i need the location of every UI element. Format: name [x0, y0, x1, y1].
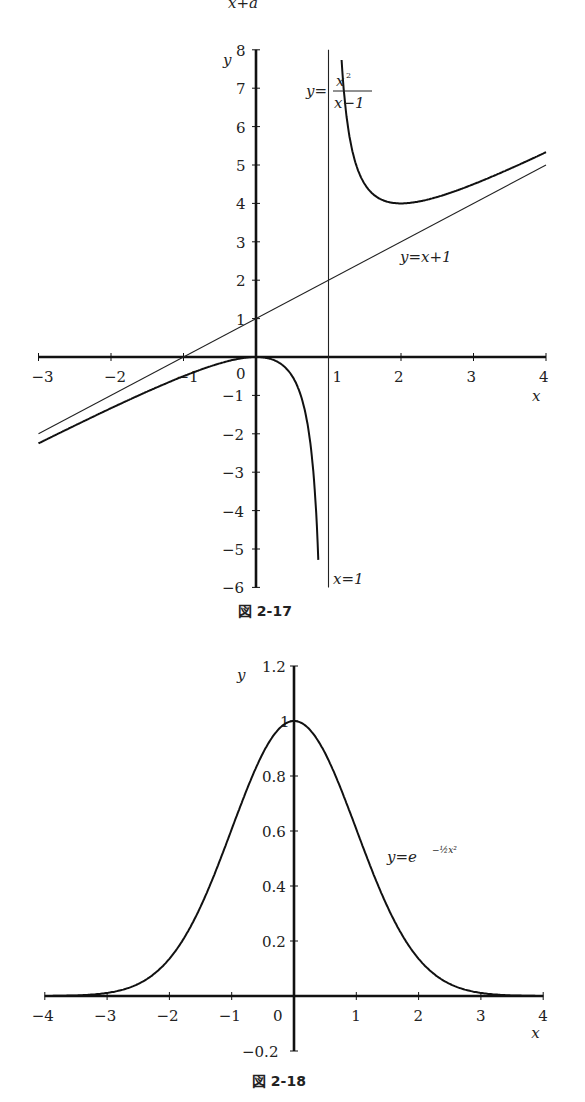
curve-label-denominator: x−1 — [334, 94, 365, 112]
x-tick-label: −3 — [94, 1007, 116, 1025]
y-tick-label: 0.8 — [262, 768, 286, 786]
curve-label-lhs: y= — [305, 82, 327, 100]
x-tick-label: 1 — [351, 1007, 361, 1025]
chart-2-18: −4−3−2−101234−0.20.20.40.60.811.2 y x y=… — [32, 658, 548, 1089]
x-tick-label: 1 — [333, 368, 343, 386]
x-tick-label: −2 — [104, 368, 126, 386]
x-tick-label: −2 — [156, 1007, 178, 1025]
curve-label-superscript: 2 — [346, 71, 351, 80]
y-tick-label: −0.2 — [242, 1043, 278, 1061]
gaussian-label-base: y=e — [386, 848, 417, 866]
x-tick-label: −4 — [32, 1007, 54, 1025]
x-axis-label: x — [532, 387, 541, 405]
y-tick-label: 7 — [236, 80, 246, 98]
x-tick-label: 2 — [394, 368, 404, 386]
header-fragment: x+a — [228, 0, 258, 12]
y-tick-label: 1.2 — [262, 658, 286, 676]
y-tick-label: 1 — [236, 311, 246, 329]
curve-label-numerator: x — [336, 72, 345, 90]
x-tick-label: 3 — [467, 368, 477, 386]
vertical-asymptote-label: x=1 — [333, 570, 364, 588]
x-tick-label: 4 — [539, 368, 549, 386]
figure-caption: 図 2-18 — [252, 1073, 306, 1089]
y-tick-label: 0.6 — [262, 823, 286, 841]
y-tick-label: 5 — [236, 157, 246, 175]
asymptote-label: y=x+1 — [399, 248, 452, 266]
curve-label: y= x 2 x−1 — [305, 71, 372, 112]
x-tick-label: 4 — [538, 1007, 548, 1025]
y-tick-label: 4 — [236, 195, 246, 213]
y-tick-label: 8 — [236, 42, 246, 60]
x-tick-label: 2 — [414, 1007, 424, 1025]
x-tick-label: 0 — [273, 1007, 283, 1025]
figure-canvas: x+a −3−2−11234−6−5−4−3−2−112345678 y x 0… — [0, 0, 585, 1102]
y-axis-label: y — [222, 51, 232, 69]
curve-right-branch — [342, 60, 546, 203]
x-axis-label: x — [531, 1024, 540, 1042]
gaussian-label-exponent: −½x² — [432, 845, 457, 855]
y-tick-label: 3 — [236, 234, 246, 252]
y-tick-label: 0.4 — [262, 878, 286, 896]
y-tick-label: −3 — [222, 464, 244, 482]
y-tick-label: −5 — [222, 541, 244, 559]
figure-caption: 図 2-17 — [238, 603, 292, 619]
y-tick-label: −1 — [222, 387, 244, 405]
y-tick-label: −2 — [222, 426, 244, 444]
y-tick-label: −4 — [222, 503, 244, 521]
origin-label: 0 — [236, 365, 246, 383]
y-tick-label: 0.2 — [262, 933, 286, 951]
asymptote-line — [39, 165, 547, 434]
y-axis-label: y — [236, 666, 246, 684]
gaussian-label: y=e −½x² — [386, 845, 457, 866]
chart-2-17: −3−2−11234−6−5−4−3−2−112345678 y x 0 y= … — [32, 42, 549, 619]
curve-left-branch — [39, 357, 319, 560]
x-tick-label: −1 — [219, 1007, 241, 1025]
y-tick-label: −6 — [222, 579, 244, 597]
x-tick-label: −3 — [32, 368, 54, 386]
x-tick-label: 3 — [476, 1007, 486, 1025]
y-tick-label: 2 — [236, 272, 246, 290]
y-tick-label: 6 — [236, 119, 246, 137]
